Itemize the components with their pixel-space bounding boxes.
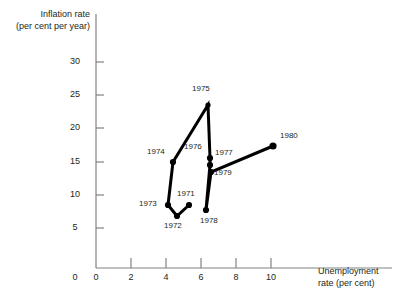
series-line-phillips (168, 105, 273, 216)
marker-1975 (205, 102, 210, 107)
marker-1974 (170, 159, 176, 165)
marker-1973 (165, 202, 171, 208)
x-tick-label-2: 2 (118, 272, 144, 282)
y-tick-label-15: 15 (62, 156, 88, 166)
y-axis-title-line2: (per cent per year) (2, 21, 90, 33)
marker-1972 (174, 213, 180, 219)
marker-1977 (207, 162, 213, 168)
point-label-1971: 1971 (177, 189, 195, 198)
x-tick-label-0: 0 (83, 272, 109, 282)
marker-1978 (203, 207, 209, 213)
y-tick-label-25: 25 (62, 89, 88, 99)
x-tick-label-6: 6 (188, 272, 214, 282)
marker-1980 (269, 142, 276, 149)
point-label-1977: 1977 (215, 148, 233, 157)
y-tick-label-10: 10 (62, 189, 88, 199)
y-tick-label-20: 20 (62, 122, 88, 132)
point-label-1980: 1980 (280, 131, 298, 140)
point-label-1976: 1976 (184, 142, 202, 151)
x-tick-label-8: 8 (223, 272, 249, 282)
point-label-1974: 1974 (147, 147, 165, 156)
x-tick-label-4: 4 (153, 272, 179, 282)
marker-1971 (186, 202, 192, 208)
point-label-1972: 1972 (164, 221, 182, 230)
series-markers (165, 102, 277, 219)
y-axis-title-line1: Inflation rate (2, 9, 90, 21)
marker-1976 (207, 155, 213, 161)
y-tick-label-5: 5 (62, 222, 88, 232)
point-label-1973: 1973 (139, 199, 157, 208)
point-label-1975: 1975 (192, 84, 210, 93)
y-axis-title: Inflation rate (per cent per year) (2, 9, 90, 32)
x-axis-title: Unemployment rate (per cent) (318, 266, 396, 289)
y-tick-label-30: 30 (62, 56, 88, 66)
y-axis-ticks (96, 62, 104, 228)
x-tick-label-10: 10 (258, 272, 284, 282)
x-axis-title-line2: rate (per cent) (318, 278, 396, 290)
phillips-curve-chart: Inflation rate (per cent per year) Unemp… (0, 0, 398, 303)
x-axis-ticks (131, 258, 271, 268)
point-label-1978: 1978 (200, 216, 218, 225)
point-label-1979: 1979 (214, 168, 232, 177)
chart-plot-area (0, 0, 398, 303)
x-axis-title-line1: Unemployment (318, 266, 396, 278)
